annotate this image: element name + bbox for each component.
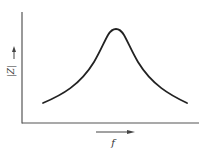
x-arrow-icon [127, 130, 135, 134]
x-axis-label: f [110, 137, 117, 148]
y-arrow-icon [12, 46, 16, 52]
y-axis-label: |Z| [6, 65, 17, 77]
impedance-diagram: |Z| f [0, 0, 207, 157]
resonance-curve [43, 29, 187, 103]
